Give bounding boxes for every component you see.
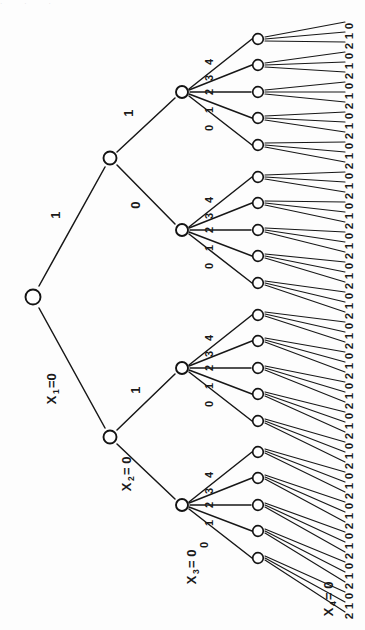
- leaf-label: 0: [343, 503, 355, 509]
- leaf-label: 0: [343, 263, 355, 269]
- leaf-label: 1: [343, 542, 355, 549]
- fan-label-a-2: 2: [203, 89, 215, 95]
- leaf-label: 2: [343, 223, 355, 229]
- leaf-label: 0: [343, 53, 355, 59]
- leaf-fan-b4: [265, 254, 345, 282]
- leaf-label: 1: [343, 392, 355, 399]
- leaf-label: 0: [343, 383, 355, 389]
- leaf-label: 2: [343, 193, 355, 199]
- x3-eq: = 0: [184, 550, 199, 568]
- node-level2-b[interactable]: [176, 224, 188, 236]
- fan-label-b-3: 3: [203, 213, 215, 219]
- leaf-label: 2: [343, 403, 355, 409]
- fan-label-b-4: 4: [203, 196, 215, 203]
- leaf-fan-d2: [265, 475, 345, 522]
- leaf-label: 2: [343, 283, 355, 289]
- leaf-label: 0: [343, 473, 355, 479]
- leaf-fan-b5: [265, 281, 345, 312]
- leaf-label: 0: [343, 113, 355, 119]
- leaf-label: 1: [343, 452, 355, 459]
- branch-label-x2-0: X 2 = 0: [119, 457, 136, 492]
- leaf-label: 2: [343, 163, 355, 169]
- leaf-fan-c3: [265, 366, 345, 402]
- edges-level2: [117, 98, 175, 499]
- x4-eq: = 0: [321, 582, 336, 600]
- fan-label-c-4: 4: [203, 334, 215, 341]
- leaf-label: 0: [343, 323, 355, 329]
- leaf-label: 2: [343, 253, 355, 259]
- leaf-label: 0: [343, 593, 355, 599]
- branch-label-x1-1: 1: [48, 211, 63, 218]
- leaf-label: 1: [343, 92, 355, 99]
- leaf-label: 1: [343, 122, 355, 129]
- leaf-label: 0: [343, 533, 355, 539]
- x3-var: X: [184, 575, 199, 584]
- leaf-fan-a1: [265, 22, 345, 42]
- branch-label-x1-0: X 1 =0: [44, 373, 61, 404]
- leaf-fan-a4: [265, 112, 345, 132]
- tree-diagram-canvas: · · ·: [0, 0, 365, 630]
- leaf-label: 1: [343, 362, 355, 369]
- node-level1-upper[interactable]: [104, 152, 117, 165]
- leaf-label: 0: [343, 443, 355, 449]
- leaf-label: 0: [343, 413, 355, 419]
- leaf-fan-b1: [265, 172, 345, 192]
- leaf-label: 2: [343, 463, 355, 469]
- node-level2-a[interactable]: [176, 86, 188, 98]
- nodes-level3[interactable]: [253, 34, 264, 564]
- node-root[interactable]: [26, 290, 41, 305]
- x1-var: X: [44, 395, 59, 404]
- fan-label-b-1: 1: [203, 245, 215, 251]
- fan-label-d-3: 3: [203, 488, 215, 494]
- branch-label-x2-1-upper: 1: [121, 109, 136, 116]
- x2-sub: 2: [126, 476, 136, 481]
- leaf-label: 2: [343, 43, 355, 49]
- leaf-label: 1: [343, 152, 355, 159]
- node-level2-d[interactable]: [176, 499, 188, 511]
- leaf-label: 1: [343, 482, 355, 489]
- leaf-label: 2: [343, 493, 355, 499]
- leaf-label: 2: [343, 73, 355, 79]
- x1-sub: 1: [51, 389, 61, 394]
- tree-svg: 1 X 1 =0 1 0 1 X 2 = 0 4 3 2 1 0 4 3: [0, 0, 365, 630]
- fan-label-d-2: 2: [203, 502, 215, 508]
- leaf-fan-b2: [265, 201, 345, 222]
- branch-label-x3-0: X 3 = 0: [184, 550, 201, 585]
- axis-label-x4: X 4 = 0: [321, 582, 338, 617]
- leaf-label: 1: [343, 182, 355, 189]
- leaf-label: 0: [343, 83, 355, 89]
- leaf-label: 1: [343, 212, 355, 219]
- x2-eq: = 0: [119, 457, 134, 475]
- fan-label-c-3: 3: [203, 351, 215, 357]
- node-level1-lower[interactable]: [104, 431, 117, 444]
- x3-sub: 3: [191, 569, 201, 574]
- leaf-label: 0: [343, 233, 355, 239]
- x2-var: X: [119, 482, 134, 491]
- leaf-label: 0: [343, 563, 355, 569]
- leaf-label: 1: [343, 572, 355, 579]
- fan-label-a-0: 0: [203, 125, 215, 131]
- leaf-label: 1: [343, 422, 355, 429]
- leaf-label: 1: [343, 302, 355, 309]
- leaf-label: 1: [343, 512, 355, 519]
- fan-label-b-2: 2: [203, 227, 215, 233]
- x4-var: X: [321, 607, 336, 616]
- leaf-label: 2: [343, 313, 355, 319]
- leaf-label: 1: [343, 242, 355, 249]
- leaf-label: 2: [343, 103, 355, 109]
- fan-label-a-4: 4: [203, 58, 215, 65]
- leaf-fan-a2: [265, 52, 345, 72]
- leaf-fan-c1: [265, 312, 345, 342]
- subtree-b: [189, 172, 345, 312]
- leaf-fan-c2: [265, 338, 345, 372]
- leaf-label: 2: [343, 613, 355, 619]
- fan-label-a-1: 1: [203, 107, 215, 113]
- x4-sub: 4: [328, 601, 338, 606]
- fan-label-c-1: 1: [203, 383, 215, 389]
- node-level2-c[interactable]: [176, 362, 188, 374]
- leaf-label: 2: [343, 523, 355, 529]
- leaf-label: 2: [343, 553, 355, 559]
- fan-label-d-0: 0: [198, 542, 210, 548]
- fan-label-d-4: 4: [203, 471, 215, 478]
- leaf-label: 2: [343, 583, 355, 589]
